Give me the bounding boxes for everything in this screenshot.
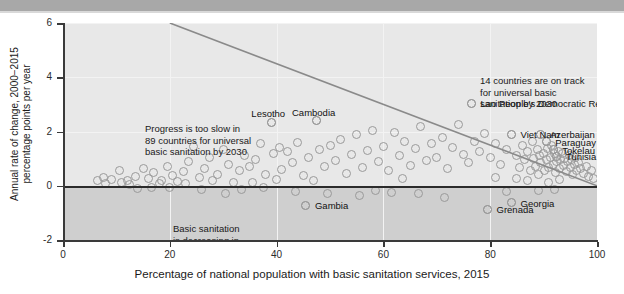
y-axis-line [63,23,65,241]
scatter-point [448,143,457,152]
scatter-point [320,162,329,171]
x-tick-label: 20 [155,249,185,260]
y-axis-label-line2: percentage points per year [21,29,33,219]
scatter-point-labeled [483,205,492,214]
scatter-point [374,157,383,166]
x-axis-line [63,240,598,242]
scatter-point [184,157,193,166]
x-tick-label: 100 [582,249,612,260]
gridline-horizontal [63,132,597,133]
x-tick [490,242,492,247]
scatter-point [589,174,597,183]
scatter-point [315,145,324,154]
scatter-point [454,120,463,129]
scatter-point-labeled [467,99,476,108]
scatter-point [304,153,313,162]
scatter-point [390,128,399,137]
scatter-point [115,166,124,175]
point-label: Georgia [521,198,555,209]
zero-reference-line [63,186,597,188]
x-tick [63,242,65,247]
scatter-point [200,164,209,173]
y-tick [57,132,63,134]
x-tick-label: 60 [368,249,398,260]
plot-area: LesothoCambodiaLao People's Democratic R… [63,23,597,240]
top-gray-band [0,0,624,11]
x-tick-label: 0 [48,249,78,260]
scatter-point-labeled [507,130,516,139]
annotation-progress-too-slow: Progress is too slow in 89 countries for… [145,123,251,158]
x-tick-label: 80 [475,249,505,260]
scatter-point [139,164,148,173]
scatter-point [486,153,495,162]
scatter-point [440,193,449,202]
x-tick [170,242,172,247]
scatter-point [414,189,423,198]
scatter-point [195,173,204,182]
y-tick-label: 0 [46,180,52,191]
y-tick [57,23,63,25]
top-band-shadow [0,11,624,13]
point-label: Gambia [315,200,348,211]
scatter-point [368,126,377,135]
y-axis-label: Annual rate of change, 2000−2015 percent… [9,29,33,219]
point-label: Lesotho [251,108,285,119]
annotation-basic-sanitation-decreasing: Basic sanitation is decreasing in 20 cou… [173,223,240,240]
scatter-point [235,166,244,175]
scatter-point [326,141,335,150]
scatter-point [502,145,511,154]
scatter-point [491,173,500,182]
scatter-point [299,171,308,180]
scatter-point [363,146,372,155]
x-tick [383,242,385,247]
y-tick-label: 4 [46,71,52,82]
scatter-point [131,172,140,181]
scatter-point [342,169,351,178]
scatter-point [502,187,511,196]
y-tick-label: 6 [46,17,52,28]
scatter-point [422,156,431,165]
x-tick [277,242,279,247]
scatter-point [179,167,188,176]
x-tick [597,242,599,247]
y-tick [57,77,63,79]
scatter-point [347,150,356,159]
scatter-point [475,147,484,156]
y-tick-label: 2 [46,126,52,137]
scatter-point [515,163,524,172]
y-tick [57,186,63,188]
point-label: Tunisia [566,151,596,162]
scatter-point [291,187,300,196]
x-tick-label: 40 [262,249,292,260]
scatter-point [355,191,364,200]
scatter-point [163,162,172,171]
x-axis-label: Percentage of national population with b… [0,268,624,280]
scatter-point [470,137,479,146]
annotation-on-track: 14 countries are on track for universal … [480,75,585,110]
scatter-point [411,144,420,153]
scatter-point [358,163,367,172]
scatter-point [406,161,415,170]
scatter-point [395,151,404,160]
y-axis-label-line1: Annual rate of change, 2000−2015 [9,29,21,219]
y-tick-label: -2 [43,234,52,245]
point-label: Cambodia [292,107,335,118]
scatter-point [224,160,233,169]
scatter-point [438,133,447,142]
scatter-point [379,142,388,151]
chart-figure: LesothoCambodiaLao People's Democratic R… [0,0,624,294]
gridline-horizontal [63,23,597,24]
scatter-point [387,188,396,197]
